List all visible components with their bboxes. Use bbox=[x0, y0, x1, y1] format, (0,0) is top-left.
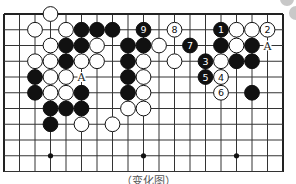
white-stone: 6 bbox=[214, 85, 229, 100]
white-stone: 4 bbox=[214, 70, 229, 85]
black-stone bbox=[229, 54, 244, 69]
svg-text:A: A bbox=[77, 71, 87, 84]
point-marker: A bbox=[77, 71, 87, 84]
black-stone bbox=[28, 70, 43, 85]
white-stone bbox=[105, 117, 120, 132]
black-stone: 7 bbox=[183, 38, 198, 53]
white-stone bbox=[59, 85, 74, 100]
black-stone bbox=[121, 70, 136, 85]
white-stone bbox=[43, 54, 58, 69]
black-stone bbox=[105, 22, 120, 37]
move-number: 8 bbox=[171, 24, 177, 35]
go-board-diagram: 981273546 AA bbox=[0, 0, 296, 184]
white-stone bbox=[229, 22, 244, 37]
white-stone: 8 bbox=[167, 22, 182, 37]
black-stone bbox=[121, 38, 136, 53]
white-stone bbox=[43, 85, 58, 100]
point-marker: A bbox=[263, 40, 273, 53]
black-stone bbox=[214, 38, 229, 53]
black-stone bbox=[121, 54, 136, 69]
svg-text:A: A bbox=[263, 40, 273, 53]
white-stone bbox=[90, 54, 105, 69]
move-number: 9 bbox=[140, 24, 146, 35]
white-stone bbox=[245, 22, 260, 37]
white-stone bbox=[74, 54, 89, 69]
black-stone: 1 bbox=[214, 22, 229, 37]
move-number: 5 bbox=[202, 72, 208, 83]
white-stone bbox=[136, 54, 151, 69]
white-stone bbox=[136, 70, 151, 85]
black-stone bbox=[74, 85, 89, 100]
move-number: 3 bbox=[202, 56, 208, 67]
black-stone bbox=[121, 85, 136, 100]
black-stone bbox=[43, 117, 58, 132]
move-number: 4 bbox=[218, 72, 224, 83]
move-number: 2 bbox=[264, 24, 270, 35]
move-number: 6 bbox=[218, 87, 224, 98]
stones-layer: 981273546 bbox=[28, 7, 275, 132]
black-stone bbox=[28, 85, 43, 100]
black-stone bbox=[59, 101, 74, 116]
black-stone bbox=[59, 54, 74, 69]
white-stone bbox=[28, 54, 43, 69]
white-stone bbox=[59, 22, 74, 37]
black-stone bbox=[74, 38, 89, 53]
black-stone bbox=[74, 22, 89, 37]
black-stone bbox=[245, 38, 260, 53]
white-stone bbox=[136, 85, 151, 100]
white-stone bbox=[136, 101, 151, 116]
move-number: 1 bbox=[218, 24, 224, 35]
black-stone bbox=[74, 101, 89, 116]
white-stone bbox=[43, 7, 58, 22]
white-stone bbox=[74, 117, 89, 132]
black-stone bbox=[90, 22, 105, 37]
diagram-caption: （变化图） bbox=[0, 176, 296, 184]
black-stone bbox=[59, 38, 74, 53]
black-stone bbox=[245, 54, 260, 69]
star-point bbox=[48, 153, 53, 158]
move-number: 7 bbox=[187, 40, 193, 51]
white-stone bbox=[229, 38, 244, 53]
star-point bbox=[141, 153, 146, 158]
white-stone bbox=[121, 101, 136, 116]
black-stone bbox=[245, 85, 260, 100]
star-point bbox=[234, 153, 239, 158]
white-stone bbox=[152, 38, 167, 53]
black-stone bbox=[43, 101, 58, 116]
white-stone bbox=[214, 54, 229, 69]
white-stone bbox=[43, 38, 58, 53]
black-stone: 5 bbox=[198, 70, 213, 85]
white-stone bbox=[90, 38, 105, 53]
white-stone bbox=[43, 70, 58, 85]
black-stone: 3 bbox=[198, 54, 213, 69]
white-stone: 2 bbox=[260, 22, 275, 37]
white-stone bbox=[167, 54, 182, 69]
white-stone bbox=[59, 70, 74, 85]
black-stone bbox=[136, 38, 151, 53]
black-stone: 9 bbox=[136, 22, 151, 37]
white-stone bbox=[28, 22, 43, 37]
